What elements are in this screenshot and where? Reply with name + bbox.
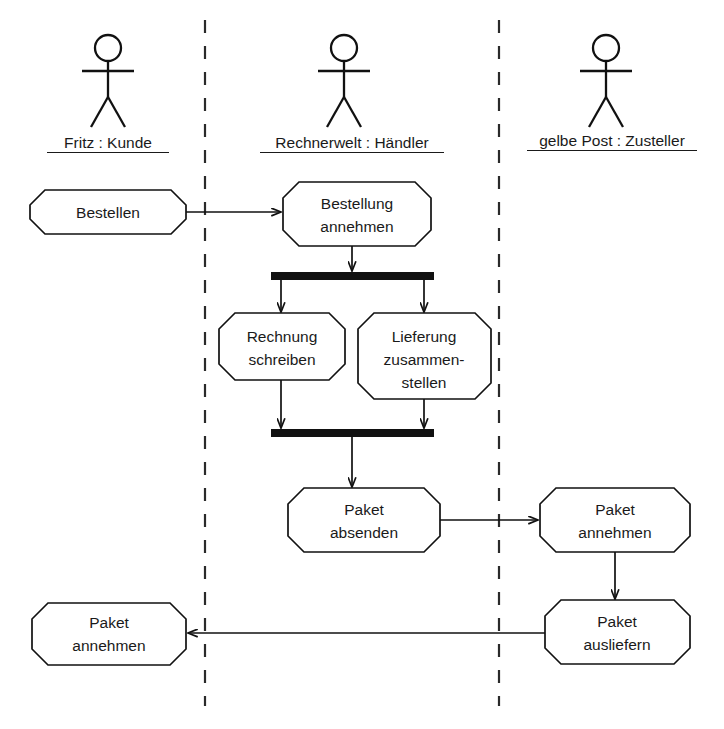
activity-node-rechnung-schreiben[interactable]: Rechnung schreiben bbox=[219, 313, 345, 380]
activity-diagram-svg: Fritz : Kunde Rechnerwelt : Händler bbox=[0, 0, 724, 729]
stick-figure-icon bbox=[82, 35, 134, 127]
activity-node-label-line-2: annehmen bbox=[320, 218, 393, 235]
swimlane-header-kunde: Fritz : Kunde bbox=[47, 35, 169, 153]
activity-node-shape bbox=[283, 182, 431, 246]
swimlane-label-zusteller: gelbe Post : Zusteller bbox=[539, 132, 685, 149]
activity-node-label-line-2: annehmen bbox=[72, 637, 145, 654]
activity-node-label: Bestellen bbox=[76, 204, 140, 221]
activity-node-label-line-1: Paket bbox=[89, 614, 129, 631]
stick-figure-icon bbox=[580, 35, 632, 127]
fork-bar bbox=[271, 272, 434, 280]
activity-node-shape bbox=[219, 313, 345, 380]
stick-figure-icon bbox=[318, 35, 370, 127]
swimlane-label-kunde: Fritz : Kunde bbox=[64, 134, 152, 151]
activity-node-bestellung-annehmen[interactable]: Bestellung annehmen bbox=[283, 182, 431, 246]
activity-node-label-line-2: zusammen- bbox=[384, 351, 465, 368]
activity-node-paket-absenden[interactable]: Paket absenden bbox=[288, 488, 440, 552]
swimlane-label-haendler: Rechnerwelt : Händler bbox=[275, 134, 428, 151]
activity-node-label-line-1: Paket bbox=[595, 501, 635, 518]
activity-node-label-line-1: Lieferung bbox=[392, 328, 457, 345]
swimlane-header-zusteller: gelbe Post : Zusteller bbox=[527, 35, 697, 151]
activity-node-shape bbox=[545, 600, 690, 664]
activity-node-shape bbox=[32, 603, 186, 665]
join-bar bbox=[271, 429, 434, 437]
activity-node-label-line-1: Bestellung bbox=[321, 195, 393, 212]
activity-node-label-line-2: annehmen bbox=[578, 524, 651, 541]
activity-node-label-line-1: Rechnung bbox=[247, 328, 318, 345]
activity-node-shape bbox=[288, 488, 440, 552]
swimlane-header-haendler: Rechnerwelt : Händler bbox=[260, 35, 444, 153]
activity-node-bestellen[interactable]: Bestellen bbox=[30, 190, 186, 234]
activity-node-label-line-2: absenden bbox=[330, 524, 398, 541]
activity-node-paket-ausliefern[interactable]: Paket ausliefern bbox=[545, 600, 690, 664]
activity-node-paket-annehmen-kunde[interactable]: Paket annehmen bbox=[32, 603, 186, 665]
activity-node-lieferung-zusammenstellen[interactable]: Lieferung zusammen- stellen bbox=[358, 313, 491, 399]
activity-node-label-line-1: Paket bbox=[597, 613, 637, 630]
activity-node-label-line-1: Paket bbox=[344, 501, 384, 518]
activity-node-paket-annehmen-post[interactable]: Paket annehmen bbox=[540, 488, 690, 552]
activity-node-label-line-2: ausliefern bbox=[583, 636, 650, 653]
activity-node-shape bbox=[540, 488, 690, 552]
activity-node-label-line-3: stellen bbox=[402, 374, 447, 391]
activity-diagram-canvas: Fritz : Kunde Rechnerwelt : Händler bbox=[0, 0, 724, 729]
activity-node-label-line-2: schreiben bbox=[248, 351, 315, 368]
